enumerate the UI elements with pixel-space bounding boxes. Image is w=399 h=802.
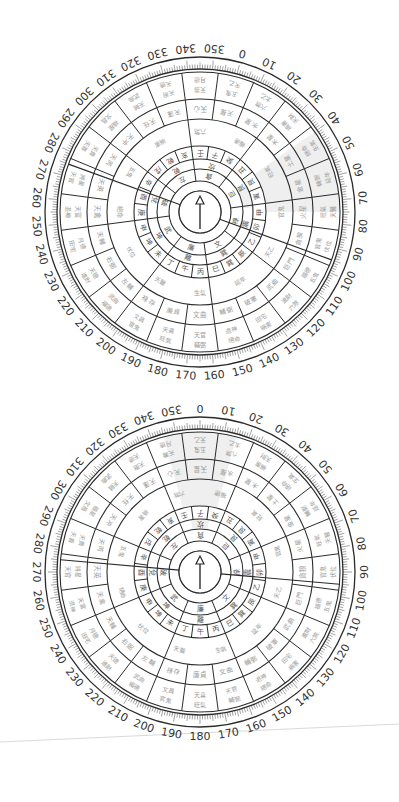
degree-label: 300 (72, 84, 96, 108)
trigram-label: 兌 (148, 569, 157, 576)
mountain-label: 壬 (197, 149, 204, 158)
degree-label: 100 (338, 269, 359, 294)
trigram-label: 兌 (149, 195, 160, 204)
mountain-label: 申 (143, 596, 154, 607)
mountain-label: 艮 (246, 177, 256, 187)
degree-label: 230 (41, 269, 62, 294)
degree-label: 310 (63, 454, 86, 478)
outer-cell-label: 將星 (76, 173, 87, 187)
mountain-label: 卯 (252, 223, 263, 232)
outer-cell-label: 伏位 (329, 566, 337, 578)
middle-cell-label: 廉貞 (193, 670, 207, 679)
middle-cell-label: 天冲 (119, 131, 135, 147)
band-label: 天醫 (153, 275, 167, 288)
outer-cell-label: 官鬼 (159, 695, 173, 706)
degree-label: 50 (340, 134, 358, 152)
outer-cell-label: 天官 (67, 171, 78, 185)
trigram-label: 離 (183, 253, 192, 264)
middle-cell-label: 天禽 (93, 205, 102, 219)
mountain-label: 壬 (180, 510, 189, 521)
mountain-label: 申 (138, 223, 149, 232)
degree-label: 160 (203, 368, 225, 383)
mountain-label: 丑 (225, 515, 235, 525)
degree-label: 90 (350, 246, 366, 263)
middle-cell-label: 文曲 (219, 665, 235, 677)
degree-label: 230 (63, 665, 86, 689)
outer-cell-label: 退神 (67, 599, 78, 613)
middle-cell-label: 天芮 (95, 538, 107, 554)
inner-label: 巨 (227, 188, 237, 198)
degree-label: 340 (175, 41, 197, 56)
mountain-label: 辰 (246, 597, 256, 607)
outer-cell-label: 天貴 (76, 533, 87, 547)
outer-cell-label: 官鬼 (127, 320, 141, 333)
degree-label: 70 (356, 190, 370, 205)
band-label: 旺氣 (250, 509, 263, 522)
middle-cell-label: 天芮 (104, 152, 119, 169)
outer-cell-label: 五鬼 (308, 271, 321, 285)
mountain-label: 辛 (138, 552, 149, 561)
outer-cell-label: 官鬼 (319, 566, 327, 578)
mountain-label: 午 (180, 264, 189, 275)
outer-cell-label: 天財 (259, 451, 273, 464)
luopan-compass-diagram: 0102030405060708090100110120130140150160… (0, 0, 399, 802)
trigram-label: 震 (244, 569, 252, 576)
outer-cell-label: 禍害 (259, 320, 273, 333)
mountain-label: 乾 (165, 155, 176, 166)
degree-label: 240 (33, 243, 51, 267)
mountain-label: 午 (197, 627, 204, 636)
degree-label: 200 (94, 335, 119, 358)
compass-dial-top: 0102030405060708090100110120130140150160… (29, 41, 370, 383)
degree-label: 310 (94, 66, 119, 89)
middle-cell-label: 左輔 (140, 653, 157, 668)
middle-cell-label: 左輔 (119, 276, 135, 292)
middle-cell-label: 貪狼 (293, 231, 305, 247)
band-label: 生氣 (214, 644, 227, 654)
mountain-label: 戌 (143, 537, 154, 548)
outer-cell-label: 太乙 (259, 91, 273, 104)
outer-cell-label: 天德 (159, 79, 173, 90)
outer-cell-label: 天乙 (227, 79, 241, 90)
mountain-label: 酉 (138, 192, 148, 201)
middle-cell-label: 貪狼 (298, 565, 307, 579)
outer-cell-label: 五鬼 (323, 599, 334, 613)
band-label: 禍害 (153, 136, 167, 149)
middle-cell-label: 破軍 (243, 293, 260, 308)
outer-cell-label: 退神 (64, 206, 72, 218)
mountain-label: 庚 (138, 583, 149, 592)
inner-label: 廉 (186, 242, 195, 253)
mountain-label: 丙 (197, 268, 204, 276)
mountain-label: 丁 (165, 258, 175, 268)
degree-label: 190 (118, 350, 143, 371)
middle-cell-label: 天輔 (95, 231, 107, 247)
degree-label: 60 (350, 161, 366, 178)
degree-label: 220 (54, 294, 77, 319)
mountain-label: 乙 (246, 237, 256, 247)
band-label: 天醫 (172, 644, 186, 655)
degree-label: 320 (82, 435, 106, 458)
band-label: 福德 (233, 136, 247, 149)
degree-label: 210 (72, 316, 96, 340)
inner-label: 貪 (197, 531, 204, 540)
degree-label: 120 (304, 316, 328, 340)
middle-cell-label: 文曲 (193, 310, 207, 319)
band-label: 延年 (250, 622, 264, 636)
degree-label: 220 (82, 686, 106, 709)
band-label: 五鬼 (124, 165, 137, 179)
outer-cell-label: 將星 (74, 566, 82, 578)
mountain-label: 巳 (211, 265, 220, 275)
outer-cell-label: 天喜 (67, 531, 78, 545)
degree-label: 350 (160, 402, 183, 418)
degree-label: 150 (231, 361, 255, 379)
inner-label: 祿 (232, 569, 241, 576)
outer-cell-label: 天官 (64, 566, 72, 578)
middle-cell-label: 輔弼 (243, 653, 260, 668)
degree-label: 140 (293, 686, 317, 709)
mountain-label: 卯 (255, 569, 264, 576)
degree-label: 240 (47, 642, 69, 667)
band-label: 絕命 (116, 206, 124, 218)
mountain-label: 甲 (256, 209, 264, 216)
inner-label: 破 (159, 569, 168, 576)
degree-label: 0 (197, 402, 204, 415)
mountain-label: 巽 (237, 609, 248, 620)
